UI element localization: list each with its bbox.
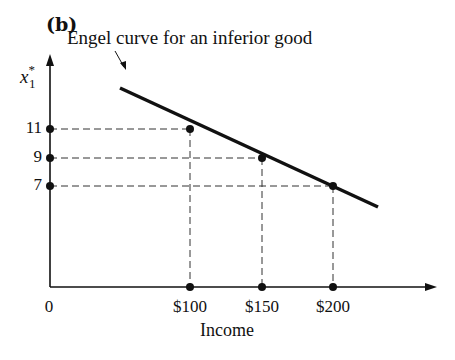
plot-area: [0, 0, 455, 360]
x-axis-arrow-icon: [425, 283, 437, 291]
y-axis-arrow-icon: [46, 54, 54, 66]
engel-curve: [120, 88, 378, 207]
guide-lines: [50, 129, 333, 287]
data-points: [46, 125, 337, 291]
